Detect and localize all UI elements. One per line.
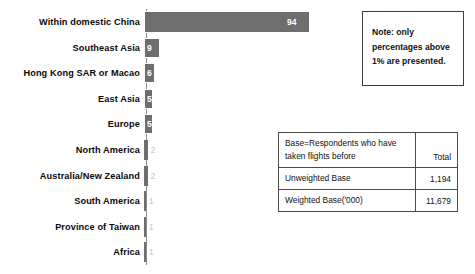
bar-value-label: 2 [151,145,156,155]
base-definition-cell: Base=Respondents who have taken flights … [279,133,416,168]
bar-value-label: 6 [147,68,152,78]
bar-row: Africa1 [0,239,340,265]
bar-value-label: 5 [147,94,152,104]
category-label: Africa [0,247,143,257]
total-column-header: Total [416,133,458,168]
bar-track: 1 [143,239,340,265]
bar-track: 5 [143,86,340,112]
bar [144,217,146,237]
category-label: Hong Kong SAR or Macao [0,68,143,78]
row-label-unweighted-base: Unweighted Base [279,168,416,190]
category-label: Europe [0,119,143,129]
category-label: Province of Taiwan [0,222,143,232]
bar-track: 6 [143,60,340,86]
category-label: Australia/New Zealand [0,171,143,181]
row-label-weighted-base: Weighted Base('000) [279,190,416,212]
bar-track: 9 [143,35,340,61]
bar [144,242,146,262]
row-value-unweighted-base: 1,194 [416,168,458,190]
bar [144,166,148,186]
table-row: Unweighted Base 1,194 [279,168,458,190]
bar-value-label: 1 [149,196,154,206]
bar-row: Southeast Asia9 [0,35,340,61]
bar-value-label: 5 [147,119,152,129]
bar-track: 1 [143,214,340,240]
bar-row: Hong Kong SAR or Macao6 [0,60,340,86]
chart-screenshot: Within domestic China94Southeast Asia9Ho… [0,0,475,274]
base-definition-line-2: taken flights before [285,150,409,163]
note-box: Note: only percentages above 1% are pres… [362,11,464,86]
note-line-3: 1% are presented. [372,54,463,69]
bar-value-label: 9 [147,43,152,53]
bar [144,11,310,33]
category-label: North America [0,145,143,155]
bar-row: Province of Taiwan1 [0,214,340,240]
bar-value-label: 1 [149,222,154,232]
bar-value-label: 94 [287,17,297,27]
bar-row: East Asia5 [0,86,340,112]
bar-value-label: 1 [149,247,154,257]
bar-value-label: 2 [151,171,156,181]
bar [144,140,148,160]
bar [144,191,146,211]
row-value-weighted-base: 11,679 [416,190,458,212]
note-line-2: percentages above [372,40,463,55]
category-label: East Asia [0,94,143,104]
base-table: Base=Respondents who have taken flights … [278,132,458,212]
bar-row: Within domestic China94 [0,9,340,35]
base-definition-line-1: Base=Respondents who have [285,137,409,150]
bar-track: 94 [143,9,340,35]
table-row: Weighted Base('000) 11,679 [279,190,458,212]
category-label: Southeast Asia [0,43,143,53]
category-label: South America [0,196,143,206]
category-label: Within domestic China [0,17,143,27]
note-line-1: Note: only [372,25,463,40]
table-header-row: Base=Respondents who have taken flights … [279,133,458,168]
